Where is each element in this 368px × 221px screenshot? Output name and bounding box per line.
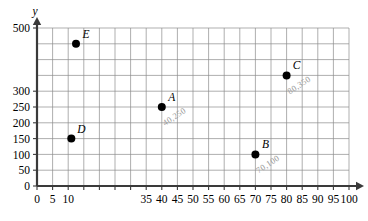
x-axis-tick-label: 35	[140, 193, 152, 205]
x-axis-tick-label: 80	[281, 193, 293, 205]
x-axis-tick-label: 75	[265, 193, 277, 205]
data-point-label: B	[262, 138, 269, 150]
x-axis-tick-label: 100	[340, 193, 358, 205]
y-axis-arrow-icon	[33, 17, 41, 25]
axis-ticks	[33, 28, 349, 190]
data-point-marker	[251, 150, 259, 158]
data-point-label: A	[167, 91, 176, 103]
y-axis-tick-label: 200	[13, 117, 31, 129]
y-axis-tick-label: 0	[24, 180, 30, 192]
y-axis-tick-labels: 050100150200250300500	[13, 22, 31, 192]
x-axis-tick-label: 55	[203, 193, 215, 205]
data-point-marker	[158, 103, 166, 111]
x-axis-tick-label: 90	[312, 193, 324, 205]
x-axis-tick-label: 40	[156, 193, 168, 205]
y-axis-tick-label: 500	[13, 22, 31, 34]
y-axis-title: y	[31, 5, 38, 18]
axes-layer	[33, 17, 364, 190]
x-axis-tick-label: 70	[250, 193, 262, 205]
data-point-a: A40,250	[158, 91, 188, 128]
y-axis-tick-label: 100	[13, 149, 31, 161]
data-point-c: C80,350	[283, 59, 313, 96]
scatter-plot: 051035404550556065707580859095100 050100…	[0, 0, 368, 221]
x-axis-tick-labels: 051035404550556065707580859095100	[34, 193, 358, 205]
grid-layer	[37, 28, 349, 186]
x-axis-tick-label: 5	[50, 193, 56, 205]
data-point-marker	[67, 135, 75, 143]
x-axis-tick-label: 60	[218, 193, 230, 205]
data-point-label: C	[293, 59, 301, 71]
x-axis-tick-label: 95	[328, 193, 340, 205]
y-axis-tick-label: 50	[19, 164, 31, 176]
data-point-label: D	[76, 123, 86, 135]
data-point-b: B70,100	[251, 138, 281, 175]
x-axis-tick-label: 65	[234, 193, 246, 205]
x-axis-tick-label: 10	[62, 193, 74, 205]
x-axis-tick-label: 45	[172, 193, 184, 205]
data-point-marker	[283, 71, 291, 79]
y-axis-tick-label: 250	[13, 101, 31, 113]
x-axis-tick-label: 50	[187, 193, 199, 205]
data-point-d: D	[67, 123, 86, 143]
x-axis-tick-label: 85	[296, 193, 308, 205]
y-axis-tick-label: 150	[13, 133, 31, 145]
y-axis-tick-label: 300	[13, 85, 31, 97]
y-axis-title-label: y	[31, 5, 38, 18]
x-axis-tick-label: 0	[34, 193, 40, 205]
x-axis-arrow-icon	[356, 182, 364, 190]
data-point-e: E	[72, 28, 90, 48]
data-point-marker	[72, 40, 80, 48]
data-point-label: E	[81, 28, 89, 40]
data-points: A40,250B70,100C80,350DE	[67, 28, 312, 175]
